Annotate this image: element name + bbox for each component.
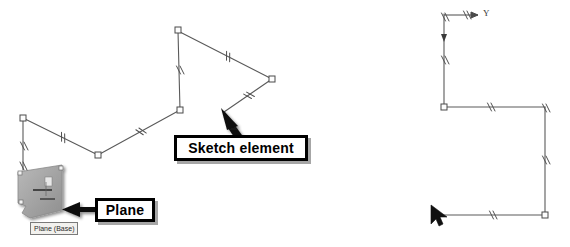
sketch-line-1[interactable] bbox=[23, 118, 98, 155]
callout-sketch-element-label: Sketch element bbox=[188, 140, 294, 156]
mouse-cursor-icon bbox=[431, 205, 447, 226]
vertex-handle[interactable] bbox=[441, 104, 447, 110]
vertex-handle[interactable] bbox=[95, 152, 101, 158]
plane-base-tooltip: Plane (Base) bbox=[30, 222, 78, 235]
plane-glyph[interactable] bbox=[18, 165, 63, 218]
callout-plane: Plane bbox=[95, 198, 155, 222]
screenshot-canvas: Sketch element Plane Plane (Base) Y bbox=[0, 0, 570, 247]
right-sketch-lines[interactable] bbox=[440, 14, 545, 215]
vertex-handle[interactable] bbox=[20, 115, 26, 121]
cad-sketch-drawing bbox=[0, 0, 570, 247]
plane-leader-arrow bbox=[62, 202, 96, 217]
right-sketch-group bbox=[431, 11, 550, 226]
callout-sketch-element: Sketch element bbox=[174, 135, 308, 161]
callout-plane-label: Plane bbox=[106, 202, 144, 218]
vertex-handle[interactable] bbox=[177, 107, 183, 113]
y-axis-arrow bbox=[444, 12, 478, 18]
vertex-handle[interactable] bbox=[175, 27, 181, 33]
vertex-handle[interactable] bbox=[269, 76, 275, 82]
y-axis-label-text: Y bbox=[483, 8, 490, 18]
sketch-line-4[interactable] bbox=[178, 31, 272, 79]
y-axis-label: Y bbox=[483, 8, 490, 18]
sketch-line-2[interactable] bbox=[98, 110, 180, 155]
sketch-direction-arrow bbox=[441, 34, 447, 42]
vertex-handle[interactable] bbox=[542, 212, 548, 218]
sketch-line-5[interactable] bbox=[224, 79, 272, 112]
plane-base-tooltip-label: Plane (Base) bbox=[34, 225, 74, 232]
right-sketch-vertices[interactable] bbox=[441, 104, 548, 218]
left-sketch-group bbox=[18, 27, 275, 218]
right-parallel-constraint-marks bbox=[442, 11, 551, 219]
